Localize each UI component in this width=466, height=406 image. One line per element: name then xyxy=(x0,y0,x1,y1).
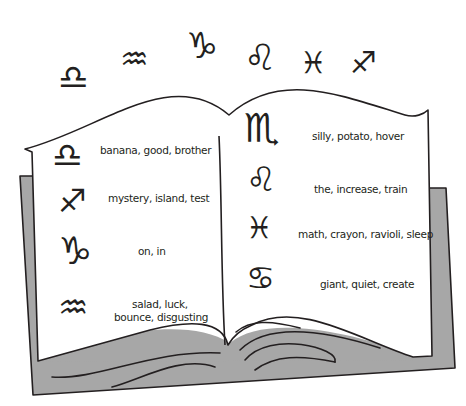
libra-icon: ♎ xyxy=(52,138,82,172)
leo-icon: ♌ xyxy=(246,162,276,196)
zodiac-book-illustration: ♎ ♒ ♑ ♌ ♓ ♐ ♎ banana, good, brother ♐ my… xyxy=(0,0,466,406)
capricorn-words: on, in xyxy=(138,245,166,258)
cancer-icon: ♋ xyxy=(246,262,275,294)
capricorn-icon: ♑ xyxy=(58,232,92,270)
cancer-words: giant, quiet, create xyxy=(320,278,414,291)
sagittarius-words: mystery, island, test xyxy=(108,192,209,205)
libra-words: banana, good, brother xyxy=(100,144,211,157)
leo-icon: ♌ xyxy=(244,40,276,76)
aquarius-icon: ♒ xyxy=(120,43,149,75)
aquarius-icon: ♒ xyxy=(58,290,88,324)
scorpio-icon: ♏ xyxy=(244,108,280,148)
libra-icon: ♎ xyxy=(58,60,88,94)
aquarius-words: salad, luck, bounce, disgusting xyxy=(114,298,206,324)
sagittarius-icon: ♐ xyxy=(58,185,87,217)
aquarius-words-line2: bounce, disgusting xyxy=(114,311,206,324)
leo-words: the, increase, train xyxy=(314,183,407,196)
sagittarius-icon: ♐ xyxy=(350,48,377,78)
pisces-words: math, crayon, ravioli, sleep xyxy=(298,228,433,241)
aquarius-words-line1: salad, luck, xyxy=(114,298,206,311)
pisces-icon: ♓ xyxy=(246,213,273,243)
capricorn-icon: ♑ xyxy=(186,28,218,64)
scorpio-words: silly, potato, hover xyxy=(312,130,404,143)
pisces-icon: ♓ xyxy=(300,48,327,78)
